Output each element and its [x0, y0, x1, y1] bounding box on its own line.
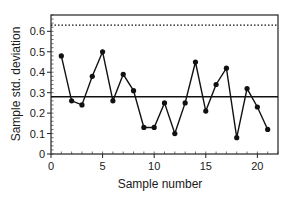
y-tick-label: 0.6	[30, 25, 45, 37]
data-point	[90, 74, 95, 79]
data-point	[69, 98, 74, 103]
y-tick-label: 0.2	[30, 107, 45, 119]
data-point	[255, 104, 260, 109]
x-tick-label: 20	[251, 160, 263, 172]
plot-frame	[51, 15, 278, 154]
data-point	[265, 127, 270, 132]
data-point	[110, 98, 115, 103]
data-point	[172, 131, 177, 136]
series-line	[61, 52, 267, 138]
data-point	[213, 82, 218, 87]
y-axis-ticks: 00.10.20.30.40.50.6	[30, 25, 51, 160]
plot-border	[51, 15, 278, 154]
data-point	[79, 102, 84, 107]
reference-lines	[51, 25, 278, 97]
data-point	[234, 135, 239, 140]
data-point	[193, 59, 198, 64]
x-tick-label: 10	[148, 160, 160, 172]
data-point	[183, 100, 188, 105]
data-point	[141, 125, 146, 130]
x-axis-title: Sample number	[118, 177, 203, 191]
control-chart: 05101520 00.10.20.30.40.50.6 Sample numb…	[0, 0, 295, 199]
data-point	[203, 108, 208, 113]
y-axis-title: Sample std. deviation	[9, 27, 23, 142]
y-tick-label: 0.5	[30, 46, 45, 58]
data-point	[121, 72, 126, 77]
x-axis-ticks: 05101520	[48, 154, 264, 172]
x-tick-label: 0	[48, 160, 54, 172]
data-point	[100, 49, 105, 54]
y-tick-label: 0.3	[30, 87, 45, 99]
x-tick-label: 5	[100, 160, 106, 172]
data-series	[59, 49, 271, 140]
minor-ticks	[51, 15, 278, 154]
y-tick-label: 0.1	[30, 128, 45, 140]
data-point	[131, 88, 136, 93]
data-point	[59, 53, 64, 58]
data-point	[244, 86, 249, 91]
y-tick-label: 0.4	[30, 66, 45, 78]
data-point	[224, 66, 229, 71]
data-point	[152, 125, 157, 130]
data-point	[162, 100, 167, 105]
y-tick-label: 0	[39, 148, 45, 160]
x-tick-label: 15	[200, 160, 212, 172]
